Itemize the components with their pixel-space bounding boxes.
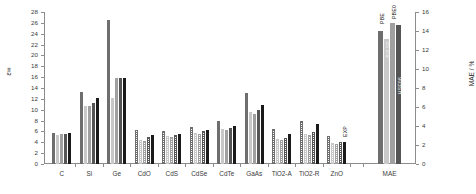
y-tick-left [41, 34, 44, 35]
bar [284, 138, 287, 164]
y-tick-left [41, 99, 44, 100]
y-axis-right-label: MAE / % [468, 44, 475, 104]
y-tick-left [41, 66, 44, 67]
bar-mae [390, 23, 395, 164]
bar [123, 78, 126, 164]
y-axis-left-line [44, 12, 45, 164]
bar [339, 142, 342, 164]
y-tick-label-right: 2 [422, 142, 444, 148]
x-tick [323, 164, 324, 167]
bar [316, 124, 319, 164]
x-tick [268, 164, 269, 167]
y-tick-right [416, 164, 419, 165]
y-tick-left [41, 131, 44, 132]
bar [304, 134, 307, 164]
y-tick-label-right: 6 [422, 104, 444, 110]
bar [280, 140, 283, 164]
y-tick-label-left: 28 [8, 9, 38, 15]
y-tick-label-left: 18 [8, 63, 38, 69]
y-tick-left [41, 142, 44, 143]
y-tick-right [416, 50, 419, 51]
bar-annotation-exp: EXP [342, 126, 348, 137]
bar [135, 130, 138, 164]
x-tick [130, 164, 131, 167]
bar [335, 144, 338, 164]
bar [288, 134, 291, 164]
bar-annotation-mae: PBE0 [391, 5, 397, 19]
y-tick-left [41, 23, 44, 24]
y-tick-right [416, 12, 419, 13]
bar [162, 131, 165, 164]
bar [327, 136, 330, 164]
y-tick-label-left: 24 [8, 31, 38, 37]
x-tick [185, 164, 186, 167]
x-tick [75, 164, 76, 167]
bar [107, 20, 110, 164]
y-tick-right [416, 31, 419, 32]
y-tick-label-left: 8 [8, 118, 38, 124]
bar [308, 135, 311, 164]
bar-mae [378, 31, 383, 164]
bar [115, 78, 118, 164]
y-tick-label-right: 12 [422, 47, 444, 53]
y-tick-label-right: 16 [422, 9, 444, 15]
bar [312, 132, 315, 164]
bar [147, 137, 150, 164]
bar [343, 142, 346, 164]
bar [194, 133, 197, 164]
y-tick-label-left: 2 [8, 150, 38, 156]
y-tick-right [416, 126, 419, 127]
bar [233, 126, 236, 164]
y-tick-label-left: 20 [8, 52, 38, 58]
y-tick-label-left: 26 [8, 20, 38, 26]
x-tick [350, 164, 351, 167]
bar [80, 92, 83, 164]
y-tick-label-left: 4 [8, 139, 38, 145]
bar [217, 121, 220, 164]
y-tick-right [416, 107, 419, 108]
y-tick-label-right: 14 [422, 28, 444, 34]
x-tick [295, 164, 296, 167]
bar [198, 134, 201, 164]
y-tick-left [41, 88, 44, 89]
bar [139, 140, 142, 164]
bar [190, 127, 193, 164]
bar [151, 135, 154, 164]
y-tick-label-left: 12 [8, 96, 38, 102]
bar [261, 105, 264, 164]
y-tick-label-left: 0 [8, 161, 38, 167]
bar [119, 78, 122, 164]
y-tick-left [41, 55, 44, 56]
y-tick-left [41, 121, 44, 122]
y-tick-label-left: 6 [8, 128, 38, 134]
y-tick-left [41, 153, 44, 154]
y-tick-left [41, 110, 44, 111]
x-tick [363, 164, 364, 167]
bar [206, 130, 209, 164]
bar [331, 143, 334, 164]
y-tick-label-left: 14 [8, 85, 38, 91]
bar-annotation-mae: HSE06 [397, 77, 403, 94]
x-tick [158, 164, 159, 167]
bar [253, 114, 256, 164]
y-tick-label-right: 4 [422, 123, 444, 129]
x-category-label-mae: MAE [369, 170, 411, 178]
bar [52, 133, 55, 164]
bar [202, 131, 205, 164]
bar [84, 106, 87, 164]
y-tick-label-left: 16 [8, 74, 38, 80]
bar [257, 110, 260, 164]
bar [56, 135, 59, 164]
bar [221, 129, 224, 164]
bar [68, 133, 71, 164]
bar [166, 136, 169, 164]
bar-mae [396, 25, 401, 164]
bar [60, 134, 63, 164]
x-tick [213, 164, 214, 167]
bar-annotation-mae: PBE [379, 13, 385, 24]
y-tick-label-right: 10 [422, 66, 444, 72]
y-tick-left [41, 45, 44, 46]
x-tick [240, 164, 241, 167]
bar [111, 98, 114, 164]
x-tick [103, 164, 104, 167]
